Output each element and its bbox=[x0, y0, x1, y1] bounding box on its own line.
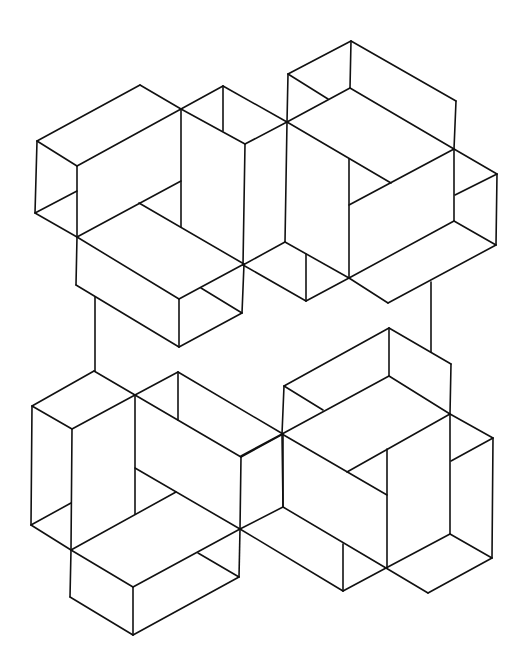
edge-line bbox=[349, 221, 454, 278]
edge-line bbox=[77, 237, 179, 299]
edge-line bbox=[350, 41, 351, 88]
edge-line bbox=[76, 285, 179, 347]
edge-line bbox=[347, 414, 450, 472]
edge-line bbox=[178, 372, 283, 434]
edge-line bbox=[455, 174, 497, 195]
figure-canvas bbox=[0, 0, 524, 669]
edge-line bbox=[245, 122, 287, 144]
edge-line bbox=[71, 492, 176, 550]
edge-line bbox=[76, 237, 77, 285]
edge-line bbox=[388, 245, 496, 303]
edge-line bbox=[135, 372, 178, 395]
edge-line bbox=[450, 414, 493, 438]
edge-line bbox=[71, 429, 72, 550]
edge-line bbox=[284, 328, 389, 386]
edge-line bbox=[31, 406, 32, 525]
edge-line bbox=[288, 41, 351, 74]
edge-line bbox=[492, 438, 493, 558]
bottom-cluster bbox=[31, 328, 493, 635]
edge-line bbox=[240, 457, 241, 529]
edge-line bbox=[243, 265, 306, 301]
edge-line bbox=[31, 503, 71, 525]
edge-line bbox=[35, 191, 77, 213]
edge-line bbox=[282, 386, 284, 434]
edge-line bbox=[201, 288, 242, 313]
edge-line bbox=[389, 376, 450, 414]
edge-line bbox=[282, 434, 387, 495]
edge-line bbox=[133, 577, 239, 635]
edge-line bbox=[242, 264, 244, 313]
edge-line bbox=[285, 122, 287, 242]
edge-line bbox=[37, 85, 140, 141]
edge-line bbox=[349, 149, 454, 205]
edge-line bbox=[181, 109, 245, 144]
edge-line bbox=[389, 328, 451, 364]
edge-line bbox=[241, 434, 282, 456]
edge-line bbox=[77, 181, 181, 237]
edge-line bbox=[37, 141, 77, 166]
edge-line bbox=[240, 529, 343, 591]
edge-line bbox=[350, 88, 454, 149]
top-cluster bbox=[35, 41, 497, 371]
edge-line bbox=[239, 529, 240, 577]
edge-line bbox=[139, 203, 244, 264]
edge-line bbox=[283, 507, 386, 568]
edge-line bbox=[282, 376, 389, 434]
edge-line bbox=[70, 550, 71, 597]
edge-line bbox=[135, 468, 240, 529]
edge-line bbox=[287, 122, 391, 183]
edge-line bbox=[243, 144, 245, 265]
edge-line bbox=[179, 313, 242, 347]
edge-line bbox=[140, 85, 181, 109]
edge-line bbox=[496, 174, 497, 245]
edge-line bbox=[223, 86, 287, 122]
edge-line bbox=[450, 364, 451, 414]
edge-line bbox=[240, 507, 283, 529]
edge-line bbox=[77, 109, 181, 166]
edge-line bbox=[35, 141, 37, 213]
edge-line bbox=[135, 395, 241, 457]
edge-line bbox=[454, 221, 496, 245]
edge-line bbox=[32, 371, 94, 406]
edge-line bbox=[70, 597, 133, 635]
edge-line bbox=[35, 213, 77, 237]
edge-line bbox=[181, 86, 223, 109]
edge-line bbox=[450, 534, 492, 558]
edge-line bbox=[198, 553, 239, 577]
edge-line bbox=[386, 534, 450, 568]
edge-line bbox=[454, 149, 497, 174]
edge-line bbox=[288, 74, 328, 99]
edge-line bbox=[71, 550, 133, 587]
edge-line bbox=[451, 438, 493, 461]
edge-line bbox=[243, 242, 285, 265]
edge-line bbox=[285, 242, 349, 278]
edge-line bbox=[282, 434, 283, 507]
isometric-boxes-drawing bbox=[0, 0, 524, 669]
edge-line bbox=[386, 568, 428, 593]
edge-line bbox=[351, 41, 456, 101]
edge-line bbox=[428, 558, 492, 593]
edge-line bbox=[287, 74, 288, 122]
edge-line bbox=[343, 568, 386, 591]
edge-line bbox=[284, 386, 323, 410]
edge-line bbox=[72, 395, 135, 429]
edge-line bbox=[133, 529, 240, 587]
edge-line bbox=[349, 278, 388, 303]
edge-line bbox=[32, 406, 72, 429]
edge-line bbox=[454, 101, 456, 149]
edge-line bbox=[306, 278, 349, 301]
edge-line bbox=[94, 371, 135, 395]
edge-line bbox=[31, 525, 71, 550]
